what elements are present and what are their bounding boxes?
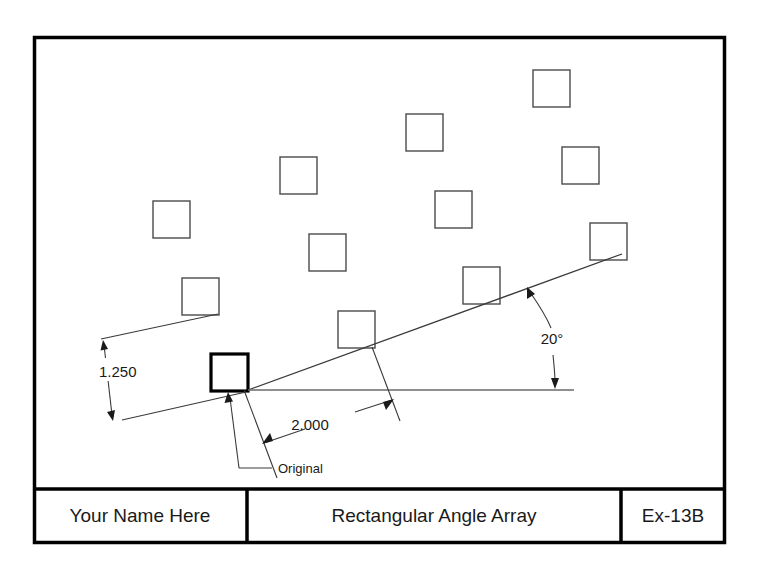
drawing-sheet: 1.250 2.000 20° [0, 0, 759, 575]
angle-dim-label: 20° [541, 330, 564, 347]
cad-drawing-canvas: 1.250 2.000 20° [0, 0, 759, 575]
title-block-title-field[interactable]: Rectangular Angle Array [332, 505, 537, 526]
title-block-name-field[interactable]: Your Name Here [70, 505, 211, 526]
title-block-code-field[interactable]: Ex-13B [642, 505, 704, 526]
column-spacing-dim-label: 2.000 [291, 416, 329, 433]
original-label: Original [278, 461, 323, 476]
row-spacing-dim-label: 1.250 [99, 363, 137, 380]
